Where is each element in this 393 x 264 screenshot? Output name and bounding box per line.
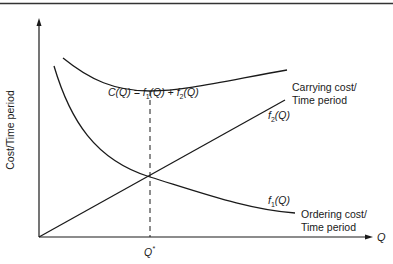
eoq-diagram: Cost/Time period C(Q) = f1(Q) + f2(Q) Ca…	[0, 0, 393, 264]
carrying-cost-label: Carrying cost/ Time period	[292, 81, 357, 107]
f2-label: f2(Q)	[268, 109, 290, 126]
x-axis-arrow-icon	[365, 235, 373, 240]
f1-label: f1(Q)	[268, 194, 290, 211]
y-axis-arrow-icon	[37, 18, 42, 26]
ordering-cost-label: Ordering cost/ Time period	[301, 208, 367, 234]
total-cost-label: C(Q) = f1(Q) + f2(Q)	[108, 86, 199, 103]
x-axis-label: Q	[377, 231, 386, 244]
optimal-q-label: Q*	[144, 242, 155, 259]
carrying-cost-line	[39, 100, 285, 237]
